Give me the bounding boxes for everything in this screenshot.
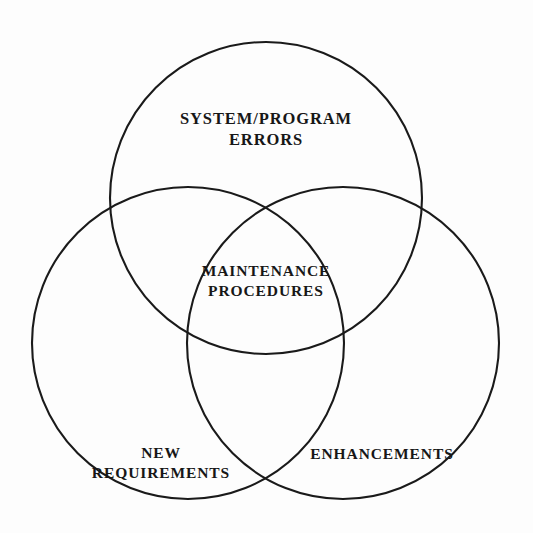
venn-circle-top xyxy=(110,42,422,354)
venn-label-system-program-errors: SYSTEM/PROGRAM ERRORS xyxy=(146,108,386,151)
venn-label-maintenance-procedures: MAINTENANCE PROCEDURES xyxy=(156,261,376,301)
venn-label-new-requirements: NEW REQUIREMENTS xyxy=(66,443,256,483)
venn-label-enhancements: ENHANCEMENTS xyxy=(292,444,472,464)
venn-diagram-canvas: SYSTEM/PROGRAM ERRORS MAINTENANCE PROCED… xyxy=(0,0,533,533)
